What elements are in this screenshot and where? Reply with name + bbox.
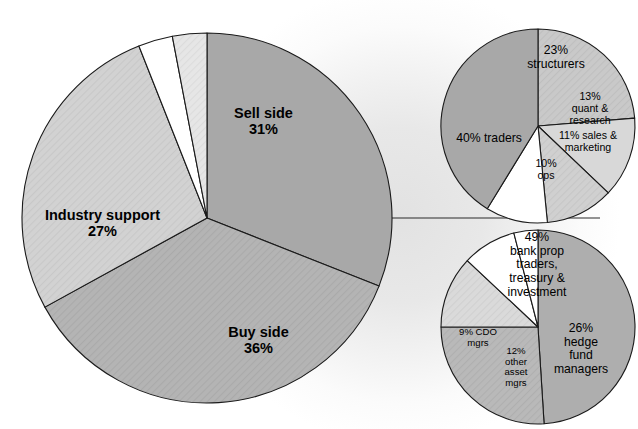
- pie-slice-structurers: [538, 29, 635, 126]
- pie-chart-figure: Sell side 31% Buy side 36% Industry supp…: [0, 0, 638, 429]
- sell-side-breakdown-slices: [441, 29, 635, 223]
- main-pie-slices: [22, 33, 392, 403]
- chart-svg: [0, 0, 638, 429]
- pie-slice-hedge-fund-managers: [441, 327, 544, 424]
- pie-slice-bank-prop-traders-treasury-investment: [538, 230, 635, 424]
- buy-side-breakdown-slices: [441, 230, 635, 424]
